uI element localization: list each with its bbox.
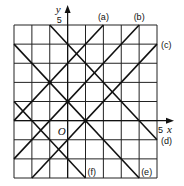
line-label: (c) <box>161 40 172 50</box>
axes <box>14 5 174 178</box>
line-label: (a) <box>98 12 109 22</box>
origin-label: O <box>58 125 66 137</box>
intersection-point <box>84 119 88 123</box>
coordinate-diagram: y55xO(a)(b)(c)(d)(e)(f) <box>0 0 184 186</box>
line-label: (b) <box>134 12 145 22</box>
line-label: (e) <box>141 167 152 177</box>
graph-line <box>14 25 103 121</box>
line-label: (d) <box>161 136 172 146</box>
y-axis-label: y <box>55 3 61 15</box>
x-tick-label: 5 <box>158 125 163 135</box>
grid <box>14 25 157 178</box>
x-axis-label: x <box>166 123 172 135</box>
intersection-point <box>48 80 52 84</box>
graph-line <box>14 44 139 178</box>
intersection-point <box>66 100 70 104</box>
y-tick-label: 5 <box>57 15 62 25</box>
line-label: (f) <box>88 167 97 177</box>
graph-line <box>32 44 157 178</box>
y-axis-arrow-icon <box>65 5 71 13</box>
graph-line <box>14 25 139 159</box>
